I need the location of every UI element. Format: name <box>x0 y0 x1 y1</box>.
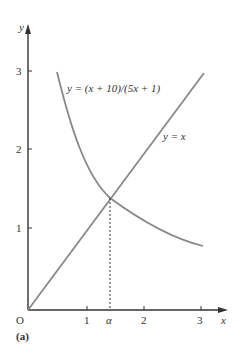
x-tick-1: 1 <box>84 314 90 326</box>
curve-label: y = (x + 10)/(5x + 1) <box>66 82 160 95</box>
panel-label: (a) <box>16 330 29 343</box>
x-axis-label: x <box>220 314 226 326</box>
line-y-equals-x <box>28 73 204 310</box>
y-axis-label: y <box>18 21 24 33</box>
x-tick-3: 3 <box>197 314 203 326</box>
line-label: y = x <box>162 130 186 142</box>
x-tick-alpha: α <box>106 314 112 326</box>
y-axis-arrow-icon <box>25 24 31 34</box>
y-tick-3: 3 <box>16 65 22 77</box>
x-tick-2: 2 <box>141 314 147 326</box>
origin-label: O <box>16 314 24 326</box>
y-tick-1: 1 <box>16 222 22 234</box>
curve-series <box>57 72 203 246</box>
y-tick-2: 2 <box>16 143 22 155</box>
chart: y 3 2 1 O 1 α 2 3 x (a) y = (x + 10)/(5x… <box>0 0 245 357</box>
x-axis-arrow-icon <box>218 307 228 313</box>
